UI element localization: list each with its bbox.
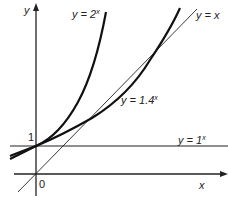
y-axis-arrow-icon	[33, 3, 39, 11]
x-axis-label: x	[198, 179, 205, 191]
label-y-equals-1-4-pow-x: y = 1.4x	[120, 94, 158, 106]
label-y-equals-1-pow-x: y = 1x	[177, 134, 206, 146]
curve-y-equals-x	[18, 9, 197, 192]
y-axis-label: y	[23, 4, 31, 16]
x-axis	[14, 171, 228, 177]
label-y-equals-x: y = x	[195, 9, 220, 21]
curve-y-equals-2-pow-x	[10, 12, 106, 156]
x-axis-arrow-icon	[220, 171, 228, 177]
exponential-graph: y x 0 1 y = 2x y = 1.4x y = 1x y = x	[0, 0, 228, 206]
y-tick-label-1: 1	[28, 131, 34, 143]
origin-label: 0	[39, 178, 45, 190]
label-y-equals-2-pow-x: y = 2x	[71, 8, 100, 20]
y-axis	[33, 3, 39, 196]
